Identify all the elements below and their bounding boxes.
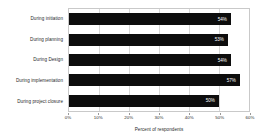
bar-row: 57% — [69, 70, 249, 90]
x-axis-tick-label: 30% — [155, 115, 164, 120]
x-axis-title: Percent of respondents — [68, 127, 250, 132]
bar-during-implementation: 57% — [69, 74, 240, 86]
bar-during-planning: 53% — [69, 34, 228, 46]
bar-row: 54% — [69, 9, 249, 29]
x-axis-tick-label: 0% — [65, 115, 71, 120]
bar-value-label: 50% — [206, 98, 215, 103]
bar-value-label: 53% — [215, 37, 224, 42]
x-axis-tick-label: 10% — [94, 115, 103, 120]
plot-area: 54% 53% 54% 57% 50% — [68, 8, 250, 112]
bar-value-label: 54% — [218, 17, 227, 22]
bar-chart: During initiation During planning During… — [0, 0, 260, 140]
category-label: During planning — [30, 37, 63, 42]
bar-row: 53% — [69, 29, 249, 49]
bars-layer: 54% 53% 54% 57% 50% — [69, 9, 249, 111]
bar-during-project-closure: 50% — [69, 95, 219, 107]
x-axis-tick-label: 50% — [215, 115, 224, 120]
x-axis-tick-label: 40% — [185, 115, 194, 120]
x-axis-tick-label: 20% — [124, 115, 133, 120]
category-tick-0: During initiation — [0, 8, 66, 29]
bar-row: 50% — [69, 91, 249, 111]
category-tick-1: During planning — [0, 29, 66, 50]
category-label: During project closure — [17, 99, 63, 104]
bar-row: 54% — [69, 50, 249, 70]
bar-value-label: 57% — [227, 78, 236, 83]
bar-value-label: 54% — [218, 58, 227, 63]
x-axis: 0%10%20%30%40%50%60% — [68, 113, 250, 122]
category-tick-2: During Design — [0, 50, 66, 71]
category-tick-3: During implementation — [0, 70, 66, 91]
category-label: During initiation — [30, 16, 63, 21]
category-label: During Design — [33, 57, 63, 62]
x-axis-tick-label: 60% — [246, 115, 255, 120]
category-axis: During initiation During planning During… — [0, 8, 66, 112]
bar-during-design: 54% — [69, 54, 231, 66]
bar-during-initiation: 54% — [69, 13, 231, 25]
category-tick-4: During project closure — [0, 91, 66, 112]
category-label: During implementation — [16, 78, 63, 83]
